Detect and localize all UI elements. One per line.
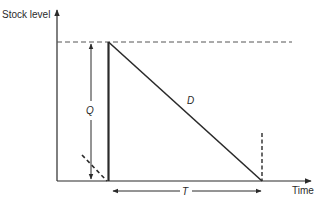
- order-quantity-label: Q: [86, 105, 94, 116]
- y-axis-label: Stock level: [2, 9, 50, 20]
- x-axis-label: Time: [292, 185, 314, 196]
- demand-label: D: [187, 95, 194, 106]
- previous-cycle-dashed-line: [82, 155, 107, 181]
- stock-level-diagram: Q D T Stock level Time: [0, 0, 318, 199]
- demand-depletion-line: [109, 42, 263, 181]
- cycle-time-label: T: [182, 186, 189, 197]
